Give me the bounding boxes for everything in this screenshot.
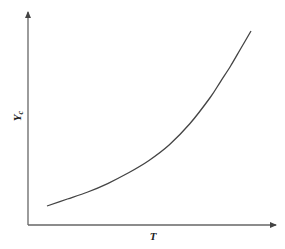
chart: Yc T [0, 0, 285, 249]
y-axis-label-sub: c [16, 110, 25, 114]
y-axis-label: Yc [11, 110, 25, 121]
svg-text:Yc: Yc [11, 110, 25, 121]
data-curve [47, 31, 251, 206]
x-axis-label: T [150, 230, 158, 242]
